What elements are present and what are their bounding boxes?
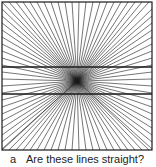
caption-text: Are these lines straight?	[26, 152, 144, 167]
ray-line	[2, 2, 77, 81]
ray-line	[77, 58, 152, 81]
ray-line	[77, 2, 79, 81]
ray-line	[77, 81, 79, 150]
figure-caption: a Are these lines straight?	[0, 152, 156, 167]
caption-label: a	[10, 152, 16, 167]
ray-line	[77, 37, 152, 81]
ray-line	[2, 79, 77, 81]
ray-line	[77, 79, 152, 81]
ray-line	[51, 2, 77, 81]
ray-line	[72, 81, 77, 150]
ray-line	[77, 81, 152, 114]
radiating-lines	[2, 2, 152, 150]
ray-line	[72, 2, 77, 81]
ray-line	[44, 2, 77, 81]
ray-line	[2, 81, 77, 135]
ray-line	[2, 81, 77, 86]
ray-line	[2, 9, 77, 81]
ray-line	[77, 81, 121, 150]
ray-line	[77, 81, 114, 150]
ray-line	[77, 2, 149, 81]
ray-line	[77, 9, 152, 81]
ray-line	[77, 2, 121, 81]
ray-line	[77, 2, 100, 81]
ray-line	[2, 23, 77, 81]
ray-line	[23, 81, 77, 150]
ray-line	[77, 81, 152, 142]
hering-illusion-figure	[0, 0, 156, 152]
ray-line	[77, 44, 152, 81]
ray-line	[77, 81, 149, 150]
ray-line	[77, 81, 152, 86]
ray-line	[16, 2, 77, 81]
ray-line	[77, 81, 152, 135]
ray-line	[77, 2, 114, 81]
